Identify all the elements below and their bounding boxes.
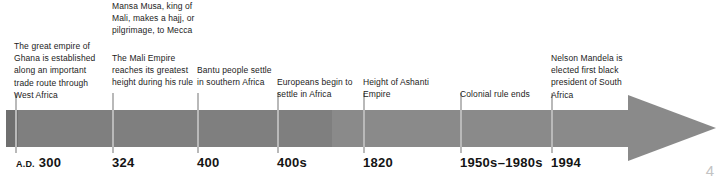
- timeline-tick: [551, 93, 553, 153]
- timeline-figure: The great empire of Ghana is established…: [0, 0, 722, 182]
- timeline-date-label: 400s: [277, 155, 307, 170]
- event-note: Europeans begin to settle in Africa: [277, 76, 361, 100]
- event-note: Height of Ashanti Empire: [363, 76, 445, 100]
- date-value-label: 300: [39, 155, 62, 170]
- event-note: The Mali Empire reaches its greatest hei…: [112, 52, 196, 89]
- date-value-label: 400: [197, 155, 220, 170]
- date-era-label: A.D.: [16, 159, 35, 169]
- timeline-tick: [197, 93, 199, 153]
- timeline-tick: [277, 93, 279, 153]
- date-value-label: 1820: [363, 155, 393, 170]
- timeline-arrow-head-icon: [628, 95, 716, 161]
- event-note: Nelson Mandela is elected first black pr…: [551, 52, 627, 101]
- timeline-date-label: 400: [197, 155, 220, 170]
- timeline-date-label: A.D. 300: [16, 155, 61, 170]
- timeline-tick: [112, 93, 114, 153]
- timeline-tick: [363, 93, 365, 153]
- timeline-date-label: 1950s–1980s: [460, 155, 543, 170]
- event-note: Mansa Musa, king of Mali, makes a hajj, …: [112, 0, 196, 37]
- page-number: 4: [706, 162, 714, 179]
- timeline-bar-shade: [18, 110, 332, 147]
- event-note: Colonial rule ends: [460, 88, 550, 100]
- timeline-date-label: 324: [112, 155, 135, 170]
- date-value-label: 1950s–1980s: [460, 155, 543, 170]
- timeline-tick: [460, 93, 462, 153]
- event-note: The great empire of Ghana is established…: [14, 40, 106, 101]
- date-value-label: 400s: [277, 155, 307, 170]
- date-value-label: 1994: [551, 155, 581, 170]
- event-note: Bantu people settle in southern Africa: [197, 64, 277, 88]
- timeline-tick: [15, 93, 17, 153]
- timeline-date-label: 1820: [363, 155, 393, 170]
- timeline-date-label: 1994: [551, 155, 581, 170]
- date-value-label: 324: [112, 155, 135, 170]
